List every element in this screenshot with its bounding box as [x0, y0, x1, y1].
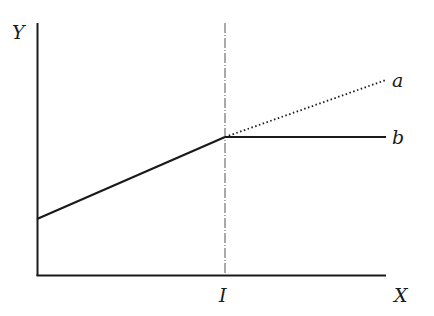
threshold-label: I — [218, 284, 227, 306]
x-axis-label: X — [392, 284, 409, 306]
diagram-canvas: Y X I a b — [0, 0, 434, 316]
y-axis-label: Y — [12, 21, 27, 43]
line-a — [225, 80, 386, 137]
line-a-label: a — [392, 69, 403, 91]
line-b-label: b — [392, 126, 404, 148]
rising-segment — [37, 137, 225, 219]
